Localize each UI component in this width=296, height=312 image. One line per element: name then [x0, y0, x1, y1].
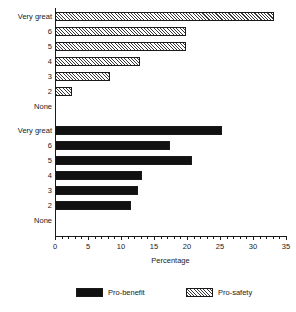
- x-axis-minor-tick: [134, 236, 135, 239]
- x-axis-major-tick: [220, 236, 221, 240]
- x-axis-minor-tick: [128, 236, 129, 239]
- bar: [55, 126, 222, 135]
- x-axis-minor-tick: [279, 236, 280, 239]
- solid-black-swatch: [76, 288, 103, 297]
- x-axis-tick-label: 15: [143, 242, 165, 251]
- bar: [55, 171, 142, 180]
- y-axis-tick-label: 4: [0, 171, 52, 180]
- bar-row: [55, 156, 286, 165]
- x-axis-title: Percentage: [55, 256, 286, 265]
- y-axis-tick-label: Very great: [0, 126, 52, 135]
- x-axis-major-tick: [286, 236, 287, 240]
- x-axis-minor-tick: [180, 236, 181, 239]
- x-axis-minor-tick: [68, 236, 69, 239]
- bar-row: [55, 27, 286, 36]
- bar-row: [55, 171, 286, 180]
- bar: [55, 42, 186, 51]
- bar-row: [55, 102, 286, 111]
- y-axis-tick-label: 2: [0, 201, 52, 210]
- bar-row: [55, 57, 286, 66]
- x-axis-tick-label: 25: [209, 242, 231, 251]
- bar-row: [55, 12, 286, 21]
- x-axis-minor-tick: [213, 236, 214, 239]
- bar-row: [55, 42, 286, 51]
- legend-label-pro-safety: Pro-safety: [218, 288, 252, 297]
- y-axis-tick-label: 4: [0, 57, 52, 66]
- bar-row: [55, 141, 286, 150]
- bar-row: [55, 72, 286, 81]
- y-axis-tick-label: 3: [0, 186, 52, 195]
- x-axis-minor-tick: [240, 236, 241, 239]
- x-axis-minor-tick: [101, 236, 102, 239]
- bar: [55, 141, 170, 150]
- bar: [55, 57, 140, 66]
- x-axis-minor-tick: [81, 236, 82, 239]
- x-axis-minor-tick: [62, 236, 63, 239]
- bar: [55, 186, 138, 195]
- y-axis-tick-label: 6: [0, 27, 52, 36]
- x-axis-tick-label: 30: [242, 242, 264, 251]
- x-axis-minor-tick: [141, 236, 142, 239]
- y-axis-tick-label: 5: [0, 156, 52, 165]
- x-axis-minor-tick: [75, 236, 76, 239]
- y-axis-tick-label: None: [0, 216, 52, 225]
- bar-chart: Very great65432NoneVery great65432None 0…: [0, 0, 296, 312]
- x-axis-line: [55, 236, 286, 237]
- x-axis-major-tick: [253, 236, 254, 240]
- x-axis-minor-tick: [260, 236, 261, 239]
- y-axis-labels: Very great65432NoneVery great65432None: [0, 8, 52, 236]
- bar-row: [55, 126, 286, 135]
- x-axis-major-tick: [187, 236, 188, 240]
- bar: [55, 72, 110, 81]
- bar: [55, 201, 131, 210]
- x-axis-minor-tick: [114, 236, 115, 239]
- legend-label-pro-benefit: Pro-benefit: [108, 288, 145, 297]
- x-axis-minor-tick: [207, 236, 208, 239]
- bar-row: [55, 186, 286, 195]
- bar: [55, 156, 192, 165]
- legend-entry-pro-benefit: Pro-benefit: [76, 288, 145, 297]
- y-axis-tick-label: 5: [0, 42, 52, 51]
- y-axis-tick-label: 3: [0, 72, 52, 81]
- x-axis-minor-tick: [266, 236, 267, 239]
- bar: [55, 12, 274, 21]
- plot-area: [55, 8, 286, 236]
- y-axis-tick-label: 2: [0, 87, 52, 96]
- x-axis-major-tick: [121, 236, 122, 240]
- x-axis-minor-tick: [167, 236, 168, 239]
- bar: [55, 87, 72, 96]
- x-axis-tick-label: 10: [110, 242, 132, 251]
- x-axis-tick-label: 5: [77, 242, 99, 251]
- x-axis-tick-label: 0: [44, 242, 66, 251]
- bar-row: [55, 201, 286, 210]
- x-axis-minor-tick: [161, 236, 162, 239]
- hatched-swatch: [186, 288, 213, 297]
- x-axis-minor-tick: [227, 236, 228, 239]
- legend-entry-pro-safety: Pro-safety: [186, 288, 252, 297]
- x-axis-minor-tick: [194, 236, 195, 239]
- x-axis-tick-label: 20: [176, 242, 198, 251]
- x-axis-major-tick: [88, 236, 89, 240]
- x-axis-minor-tick: [273, 236, 274, 239]
- x-axis-major-tick: [154, 236, 155, 240]
- y-axis-tick-label: Very great: [0, 12, 52, 21]
- x-axis-tick-label: 35: [275, 242, 296, 251]
- legend: Pro-benefit Pro-safety: [0, 288, 296, 304]
- bar-row: [55, 216, 286, 225]
- x-axis-minor-tick: [246, 236, 247, 239]
- y-axis-tick-label: 6: [0, 141, 52, 150]
- x-axis-minor-tick: [108, 236, 109, 239]
- bar: [55, 27, 186, 36]
- x-axis-minor-tick: [147, 236, 148, 239]
- y-axis-tick-label: None: [0, 102, 52, 111]
- bar-row: [55, 87, 286, 96]
- x-axis-minor-tick: [174, 236, 175, 239]
- x-axis-major-tick: [55, 236, 56, 240]
- x-axis-minor-tick: [233, 236, 234, 239]
- x-axis-minor-tick: [200, 236, 201, 239]
- x-axis-minor-tick: [95, 236, 96, 239]
